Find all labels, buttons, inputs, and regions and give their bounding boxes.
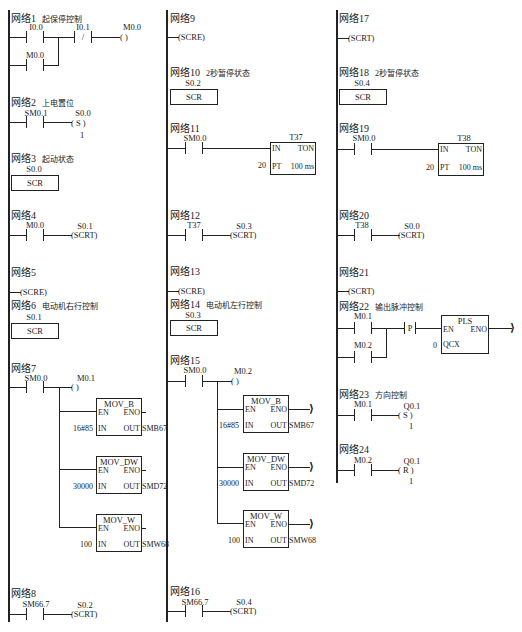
pin-en: EN bbox=[98, 467, 109, 475]
contact-label: M0.1 bbox=[351, 312, 375, 321]
no-contact[interactable] bbox=[354, 143, 372, 155]
set-coil[interactable]: ( S ) bbox=[71, 119, 86, 128]
wire bbox=[141, 470, 146, 471]
set-coil[interactable]: ( S ) bbox=[398, 411, 413, 420]
ton-timer-box[interactable]: IN TON PT 100 ms bbox=[270, 142, 316, 175]
pin-out: OUT bbox=[271, 422, 287, 430]
output-coil[interactable]: ( ) bbox=[71, 383, 79, 392]
pin-pt: PT bbox=[440, 164, 449, 172]
scrt-coil[interactable]: (SCRT) bbox=[230, 231, 256, 240]
reset-coil[interactable]: ( R ) bbox=[398, 466, 414, 475]
pin-out: OUT bbox=[124, 425, 140, 433]
scrt-coil[interactable]: (SCRT) bbox=[230, 607, 256, 616]
network-title: 网络3起动状态 bbox=[11, 153, 74, 165]
pin-en: EN bbox=[245, 406, 256, 414]
scr-box[interactable]: SCR bbox=[170, 320, 218, 336]
wire bbox=[337, 470, 354, 471]
pin-eno: ENO bbox=[471, 326, 487, 334]
network-title: 网络13 bbox=[170, 266, 200, 277]
no-contact[interactable] bbox=[354, 409, 372, 421]
wire bbox=[9, 65, 26, 66]
no-contact[interactable] bbox=[26, 229, 44, 241]
no-contact[interactable] bbox=[185, 229, 203, 241]
pin-en: EN bbox=[443, 326, 454, 334]
scre-coil[interactable]: (SCRE) bbox=[178, 33, 205, 42]
wire bbox=[386, 328, 387, 358]
timer-resolution: 100 ms bbox=[291, 163, 314, 171]
scrt-coil[interactable]: (SCRT) bbox=[348, 34, 374, 43]
network-title: 网络16 bbox=[170, 586, 200, 597]
output-coil[interactable]: ( ) bbox=[231, 377, 239, 386]
no-contact[interactable] bbox=[354, 464, 372, 476]
pt-value: 20 bbox=[426, 164, 434, 172]
no-contact[interactable] bbox=[26, 381, 44, 393]
pin-eno: ENO bbox=[124, 525, 140, 533]
wire bbox=[44, 37, 74, 38]
wire bbox=[337, 357, 354, 358]
mov-dw-box[interactable]: MOV_DW EN ENO IN OUT bbox=[243, 453, 289, 491]
pin-in: IN bbox=[272, 145, 280, 153]
out-value: SMD72 bbox=[142, 483, 167, 491]
pin-en: EN bbox=[245, 521, 256, 529]
scr-box[interactable]: SCR bbox=[170, 89, 218, 105]
wire bbox=[141, 528, 146, 529]
coil-label: S0.0 bbox=[72, 109, 94, 118]
no-contact[interactable] bbox=[185, 605, 203, 617]
network-title: 网络102秒暂停状态 bbox=[170, 67, 250, 79]
out-value: SMW68 bbox=[289, 537, 316, 545]
coil-count: 1 bbox=[407, 477, 415, 486]
wire bbox=[59, 510, 60, 528]
no-contact[interactable] bbox=[26, 116, 44, 128]
mov-b-box[interactable]: MOV_B EN ENO IN OUT bbox=[243, 395, 289, 433]
pin-in: IN bbox=[98, 541, 106, 549]
ton-timer-box[interactable]: IN TON PT 100 ms bbox=[438, 143, 484, 176]
pin-en: EN bbox=[245, 464, 256, 472]
scrt-coil[interactable]: (SCRT) bbox=[71, 610, 97, 619]
scr-box[interactable]: SCR bbox=[11, 175, 59, 191]
mov-w-box[interactable]: MOV_W EN ENO IN OUT bbox=[96, 514, 142, 552]
scrt-coil[interactable]: (SCRT) bbox=[398, 231, 424, 240]
in-value: 100 bbox=[80, 541, 92, 549]
mov-b-box[interactable]: MOV_B EN ENO IN OUT bbox=[96, 398, 142, 436]
timer-label: T38 bbox=[454, 134, 474, 143]
scr-bit: S0.2 bbox=[181, 79, 205, 88]
coil-count: 1 bbox=[407, 422, 415, 431]
scr-box[interactable]: SCR bbox=[339, 89, 387, 105]
scre-coil[interactable]: (SCRE) bbox=[178, 287, 205, 296]
no-contact[interactable] bbox=[185, 142, 203, 154]
wire bbox=[416, 328, 441, 329]
no-contact[interactable] bbox=[26, 608, 44, 620]
output-coil[interactable]: ( ) bbox=[120, 33, 128, 42]
no-contact[interactable] bbox=[26, 59, 44, 71]
pin-in: IN bbox=[98, 425, 106, 433]
scrt-coil[interactable]: (SCRT) bbox=[348, 287, 374, 296]
wire bbox=[9, 37, 26, 38]
no-contact[interactable] bbox=[354, 229, 372, 241]
pls-box[interactable]: PLS EN ENO QCX bbox=[441, 315, 489, 354]
pin-in: IN bbox=[245, 422, 253, 430]
pt-value: 20 bbox=[258, 162, 266, 170]
wire bbox=[44, 235, 72, 236]
pin-out: OUT bbox=[124, 483, 140, 491]
in-value: 100 bbox=[228, 537, 240, 545]
network-title: 网络9 bbox=[170, 13, 195, 24]
eno-open-end-icon: ⟩ bbox=[309, 518, 314, 529]
wire bbox=[288, 524, 310, 525]
no-contact[interactable] bbox=[354, 322, 372, 334]
no-contact[interactable] bbox=[185, 375, 203, 387]
scrt-coil[interactable]: (SCRT) bbox=[71, 231, 97, 240]
wire bbox=[44, 65, 59, 66]
scre-coil[interactable]: (SCRE) bbox=[20, 288, 47, 297]
no-contact[interactable] bbox=[354, 351, 372, 363]
pin-in: IN bbox=[98, 483, 106, 491]
wire bbox=[9, 122, 26, 123]
pin-qcx: QCX bbox=[443, 341, 460, 349]
wire bbox=[44, 614, 72, 615]
contact-label: M0.2 bbox=[351, 341, 375, 350]
out-value: SMB67 bbox=[142, 425, 167, 433]
mov-w-box[interactable]: MOV_W EN ENO IN OUT bbox=[243, 510, 289, 548]
contact-label: SM0.0 bbox=[349, 134, 379, 143]
mov-dw-box[interactable]: MOV_DW EN ENO IN OUT bbox=[96, 456, 142, 494]
scr-box[interactable]: SCR bbox=[11, 323, 59, 339]
no-contact[interactable] bbox=[26, 31, 44, 43]
